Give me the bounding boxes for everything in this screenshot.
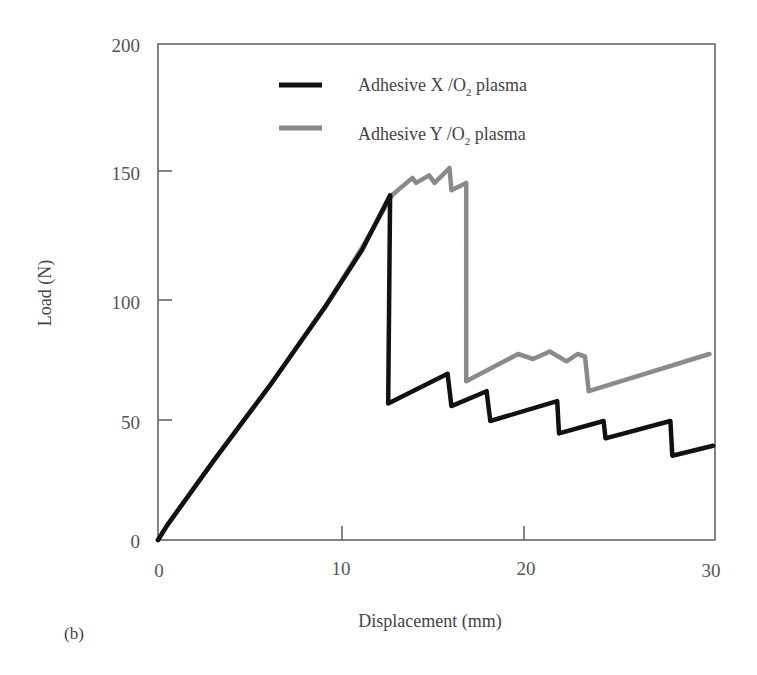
panel-label: (b) <box>64 624 84 643</box>
y-tick-100: 100 <box>112 292 141 313</box>
x-axis-title: Displacement (mm) <box>358 611 501 632</box>
x-axis-ticks <box>342 526 524 540</box>
series-adhesive-x-line <box>158 195 713 540</box>
x-tick-30: 30 <box>702 560 721 581</box>
series-adhesive-y-line <box>158 168 709 540</box>
x-tick-10: 10 <box>332 558 351 579</box>
x-tick-0: 0 <box>154 560 164 581</box>
chart-canvas: 0 50 100 150 200 0 10 20 30 Load (N) Dis… <box>0 0 757 675</box>
series-layer <box>158 168 713 540</box>
y-tick-labels: 0 50 100 150 200 <box>112 35 141 552</box>
y-tick-150: 150 <box>112 163 141 184</box>
y-tick-200: 200 <box>112 35 141 56</box>
legend: Adhesive X /O2 plasma Adhesive Y /O2 pla… <box>279 75 527 147</box>
legend-label-y: Adhesive Y /O2 plasma <box>358 124 526 147</box>
x-tick-20: 20 <box>517 558 536 579</box>
plot-frame <box>158 44 715 540</box>
y-tick-0: 0 <box>131 531 141 552</box>
legend-label-x: Adhesive X /O2 plasma <box>358 75 527 98</box>
y-axis-title: Load (N) <box>35 260 56 326</box>
x-tick-labels: 0 10 20 30 <box>154 558 720 581</box>
y-axis-ticks <box>158 171 172 420</box>
y-tick-50: 50 <box>121 412 140 433</box>
